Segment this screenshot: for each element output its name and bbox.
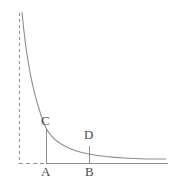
point-label-b: B	[85, 165, 94, 178]
point-label-d: D	[84, 128, 93, 141]
hyperbola-curve	[22, 12, 166, 159]
point-label-a: A	[41, 165, 50, 178]
geometry-figure: C D A B	[0, 0, 174, 189]
figure-canvas	[0, 0, 174, 189]
point-label-c: C	[41, 114, 50, 127]
